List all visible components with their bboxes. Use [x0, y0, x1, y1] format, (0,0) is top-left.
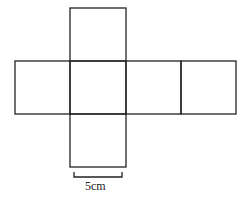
face-bottom: [70, 114, 126, 167]
cube-net-diagram: [0, 0, 247, 200]
face-right: [126, 61, 181, 114]
dimension-bracket: [74, 172, 122, 177]
face-left: [15, 61, 70, 114]
dimension-label: 5cm: [85, 179, 106, 194]
face-center: [70, 61, 126, 114]
face-far-right: [181, 61, 236, 114]
face-top: [70, 8, 126, 61]
